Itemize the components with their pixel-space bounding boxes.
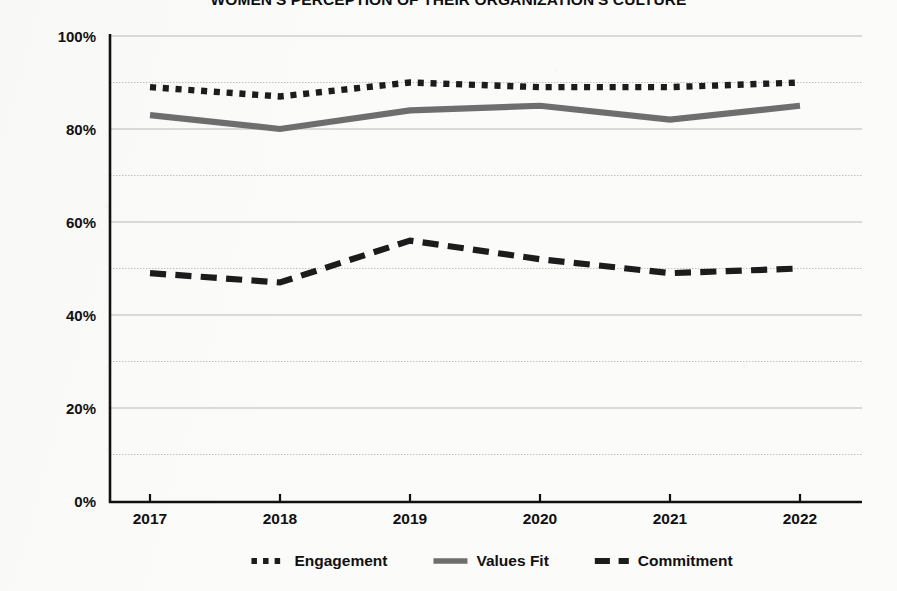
- legend-label: Values Fit: [476, 552, 548, 569]
- y-axis-tick-label: 20%: [66, 400, 96, 417]
- series-line-commitment: [150, 241, 800, 283]
- x-axis-tick-label: 2022: [783, 510, 817, 527]
- data-series-layer: [150, 83, 800, 283]
- chart-figure: 100%80%60%40%20%0% 201720182019202020212…: [0, 0, 897, 591]
- x-axis-tick-label: 2018: [263, 510, 298, 527]
- gridlines: [110, 36, 862, 455]
- legend-item-engagement[interactable]: Engagement: [251, 552, 387, 569]
- chart-legend: EngagementValues FitCommitment: [251, 552, 732, 569]
- legend-item-commitment[interactable]: Commitment: [595, 552, 733, 569]
- legend-label: Commitment: [638, 552, 733, 569]
- x-axis-tick-label: 2021: [653, 510, 688, 527]
- line-chart-svg: 100%80%60%40%20%0% 201720182019202020212…: [0, 0, 897, 591]
- legend-item-values-fit[interactable]: Values Fit: [433, 552, 548, 569]
- x-axis-tick-label: 2017: [133, 510, 167, 527]
- series-line-values-fit: [150, 106, 800, 129]
- legend-label: Engagement: [294, 552, 387, 569]
- x-axis-tick-labels: 201720182019202020212022: [133, 510, 817, 527]
- y-axis-tick-label: 60%: [66, 214, 96, 231]
- y-axis-tick-label: 80%: [66, 121, 96, 138]
- chart-page: WOMEN'S PERCEPTION OF THEIR ORGANIZATION…: [0, 0, 897, 591]
- series-line-engagement: [150, 83, 800, 97]
- y-axis-tick-label: 0%: [74, 493, 96, 510]
- y-axis-tick-label: 100%: [58, 28, 96, 45]
- x-axis-tick-label: 2019: [393, 510, 428, 527]
- y-axis-tick-label: 40%: [66, 307, 96, 324]
- y-axis-tick-labels: 100%80%60%40%20%0%: [58, 28, 96, 510]
- x-axis-tick-label: 2020: [523, 510, 557, 527]
